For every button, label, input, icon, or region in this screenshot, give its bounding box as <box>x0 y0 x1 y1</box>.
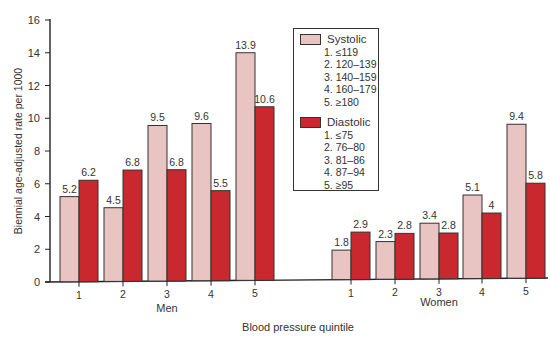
diastolic-bar <box>351 232 370 279</box>
y-tick-label: 12 <box>28 80 40 92</box>
y-tick-label: 16 <box>28 14 40 26</box>
diastolic-bar <box>167 170 186 281</box>
bar-value-label: 9.4 <box>509 110 524 122</box>
legend-systolic-item: 2. 120–139 <box>324 58 378 71</box>
y-tick-label: 6 <box>34 178 40 190</box>
bar-value-label: 9.5 <box>150 111 165 123</box>
legend-diastolic-item: 4. 87–94 <box>324 166 378 179</box>
diastolic-bar <box>211 191 230 281</box>
diastolic-bar <box>395 233 414 279</box>
systolic-bar <box>376 242 395 280</box>
diastolic-bar <box>79 180 98 282</box>
systolic-bar <box>192 124 211 281</box>
systolic-bar <box>104 208 123 282</box>
diastolic-bar <box>526 183 545 278</box>
legend-systolic-item: 1. ≤119 <box>324 46 378 59</box>
systolic-bar <box>148 125 167 281</box>
systolic-bar <box>60 197 79 282</box>
bar-value-label: 6.2 <box>81 166 96 178</box>
bar-value-label: 3.4 <box>422 209 437 221</box>
bar-value-label: 2.9 <box>353 218 368 230</box>
bar-value-label: 6.8 <box>125 156 140 168</box>
diastolic-bar <box>255 107 274 281</box>
diastolic-bar <box>482 213 501 279</box>
bar-value-label: 4.5 <box>106 194 121 206</box>
y-tick-label: 8 <box>34 145 40 157</box>
bar-value-label: 5.5 <box>213 177 228 189</box>
systolic-bar <box>332 250 351 279</box>
systolic-bar <box>420 223 439 279</box>
bar-value-label: 10.6 <box>254 93 275 105</box>
x-tick-label: 5 <box>252 287 258 299</box>
y-tick-label: 10 <box>28 112 40 124</box>
systolic-bar <box>507 124 526 278</box>
bar-chart: 0246810121416Biennial age-adjusted rate … <box>0 0 550 338</box>
x-tick-label: 1 <box>76 289 82 301</box>
y-tick-label: 14 <box>28 47 40 59</box>
group-label-women: Women <box>420 296 458 308</box>
legend-entry-systolic: Systolic <box>300 33 378 46</box>
bar-value-label: 5.8 <box>528 169 543 181</box>
legend-label-diastolic: Diastolic <box>327 116 370 129</box>
bar-value-label: 5.1 <box>465 181 480 193</box>
y-tick-label: 2 <box>34 243 40 255</box>
legend-systolic-item: 4. 160–179 <box>324 83 378 96</box>
bar-value-label: 4 <box>489 199 495 211</box>
x-tick-label: 3 <box>164 288 170 300</box>
legend-diastolic-item: 1. ≤75 <box>324 129 378 142</box>
systolic-bar <box>463 195 482 279</box>
group-label-men: Men <box>156 302 177 314</box>
legend-diastolic-item: 3. 81–86 <box>324 154 378 167</box>
diastolic-bar <box>123 170 142 281</box>
x-tick-label: 4 <box>479 286 485 298</box>
x-tick-label: 5 <box>523 285 529 297</box>
systolic-bar <box>236 53 255 281</box>
legend-entry-diastolic: Diastolic <box>300 116 378 129</box>
bar-value-label: 5.2 <box>62 183 77 195</box>
legend-diastolic-item: 5. ≥95 <box>324 179 378 192</box>
legend-diastolic-item: 2. 76–80 <box>324 141 378 154</box>
x-tick-label: 2 <box>392 286 398 298</box>
bar-value-label: 2.8 <box>441 219 456 231</box>
x-tick-label: 1 <box>348 287 354 299</box>
diastolic-swatch <box>300 117 321 128</box>
chart-legend: Systolic 1. ≤119 2. 120–139 3. 140–159 4… <box>293 28 379 191</box>
bar-value-label: 2.8 <box>397 219 412 231</box>
legend-systolic-item: 5. ≥180 <box>324 96 378 109</box>
x-tick-label: 2 <box>120 288 126 300</box>
bar-value-label: 13.9 <box>235 39 256 51</box>
x-axis-title: Blood pressure quintile <box>242 321 354 333</box>
y-tick-label: 4 <box>34 211 40 223</box>
legend-systolic-item: 3. 140–159 <box>324 71 378 84</box>
legend-label-systolic: Systolic <box>327 33 367 46</box>
x-tick-label: 4 <box>208 288 214 300</box>
diastolic-bar <box>439 233 458 279</box>
bar-value-label: 1.8 <box>334 236 349 248</box>
systolic-swatch <box>300 34 321 45</box>
bar-value-label: 6.8 <box>169 156 184 168</box>
bar-value-label: 2.3 <box>378 228 393 240</box>
bar-value-label: 9.6 <box>194 110 209 122</box>
y-axis-title: Biennial age-adjusted rate per 1000 <box>12 68 24 235</box>
y-tick-label: 0 <box>34 276 40 288</box>
